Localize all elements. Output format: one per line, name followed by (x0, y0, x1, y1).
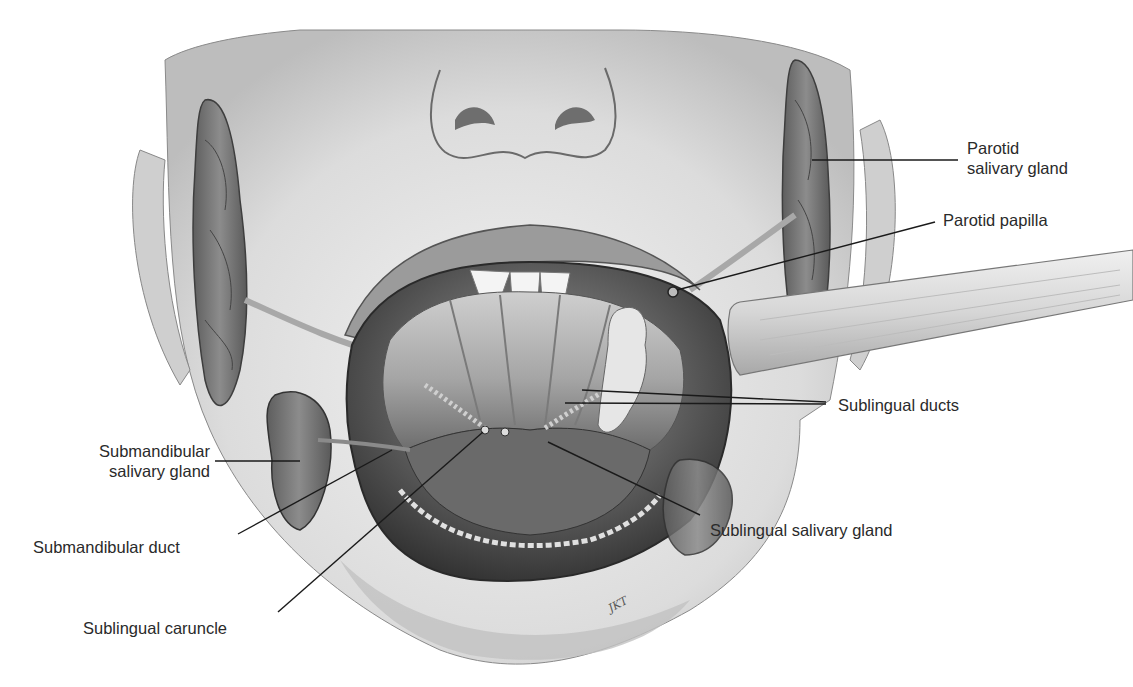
label-line: Submandibular (99, 442, 210, 460)
label-line: Sublingual salivary gland (710, 521, 893, 539)
label-parotid-salivary-gland: Parotid salivary gland (967, 138, 1068, 178)
label-submandibular-duct: Submandibular duct (33, 537, 180, 557)
label-parotid-papilla: Parotid papilla (943, 210, 1048, 230)
label-sublingual-salivary-gland: Sublingual salivary gland (710, 520, 893, 540)
label-sublingual-ducts: Sublingual ducts (838, 395, 959, 415)
label-line: Parotid papilla (943, 211, 1048, 229)
label-submandibular-salivary-gland: Submandibular salivary gland (60, 441, 210, 481)
label-line: Sublingual caruncle (83, 619, 227, 637)
label-line: salivary gland (60, 461, 210, 481)
label-line: salivary gland (967, 158, 1068, 178)
label-line: Parotid (967, 139, 1019, 157)
label-line: Submandibular duct (33, 538, 180, 556)
label-line: Sublingual ducts (838, 396, 959, 414)
salivary-gland-illustration (0, 0, 1133, 687)
label-sublingual-caruncle: Sublingual caruncle (83, 618, 227, 638)
